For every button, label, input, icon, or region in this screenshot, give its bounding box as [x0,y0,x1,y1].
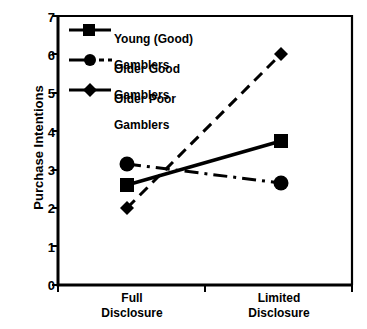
x-tick-label-limited-disclosure: Limited Disclosure [219,291,339,321]
x-tick-label-full-disclosure-line2: Disclosure [72,306,192,321]
chart-figure: Purchase Intentions 7 6 5 4 3 2 1 0 [0,0,367,329]
legend-label-older-poor-gamblers-line1: Older Poor [114,92,176,106]
legend-swatch-diamond-dashed [68,82,112,98]
x-tick-label-limited-disclosure-line1: Limited [219,291,339,306]
x-tick-label-limited-disclosure-line2: Disclosure [219,306,339,321]
series-young-good-gamblers [120,134,288,192]
legend-item-young-good-gamblers: Young (Good) Gamblers [68,22,200,50]
chart-legend: Young (Good) Gamblers Older Good Gambler… [68,22,200,112]
legend-item-older-good-gamblers: Older Good Gamblers [68,52,200,80]
legend-label-older-poor-gamblers: Older Poor Gamblers [114,80,176,132]
legend-label-young-good-gamblers-line1: Young (Good) [114,32,193,46]
legend-swatch-square-solid [68,22,112,38]
x-tick-label-full-disclosure-line1: Full [72,291,192,306]
legend-label-older-good-gamblers-line1: Older Good [114,62,180,76]
legend-swatch-circle-dashdot [68,52,112,68]
legend-label-older-poor-gamblers-line2: Gamblers [114,118,169,132]
x-tick-label-full-disclosure: Full Disclosure [72,291,192,321]
legend-item-older-poor-gamblers: Older Poor Gamblers [68,82,200,110]
